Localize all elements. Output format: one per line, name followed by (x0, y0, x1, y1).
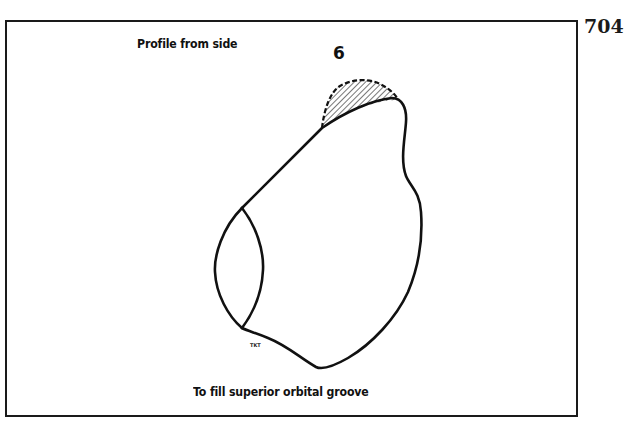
anterior-face-inner-arc (242, 208, 263, 328)
artist-initials: TKT (250, 342, 261, 348)
implant-profile-outline (242, 98, 421, 368)
caption-to-fill-superior-orbital-groove: To fill superior orbital groove (193, 384, 369, 399)
implant-profile-drawing (0, 0, 637, 429)
anterior-face-outer-arc (215, 208, 242, 328)
